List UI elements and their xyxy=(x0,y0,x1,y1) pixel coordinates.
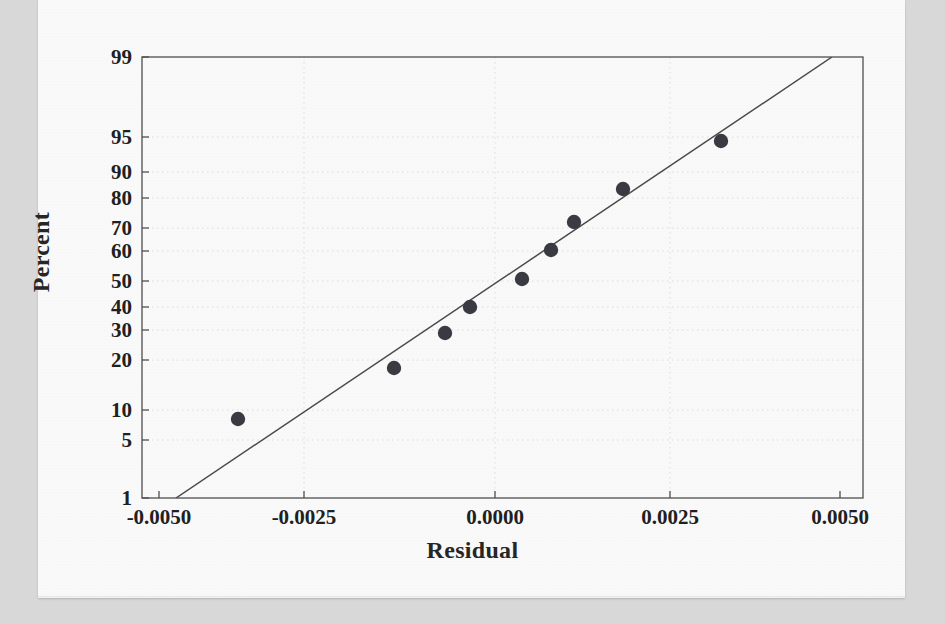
y-tick-label-30: 30 xyxy=(72,318,132,343)
data-point xyxy=(544,243,558,257)
x-tick-label-0000: 0.0000 xyxy=(415,505,575,530)
y-tick-label-60: 60 xyxy=(72,239,132,264)
data-point xyxy=(616,182,630,196)
data-point xyxy=(231,412,245,426)
y-tick-marks xyxy=(142,57,149,498)
x-tick-label-0025: 0.0025 xyxy=(590,505,750,530)
y-tick-label-50: 50 xyxy=(72,269,132,294)
y-tick-label-95: 95 xyxy=(72,125,132,150)
y-tick-label-99: 99 xyxy=(72,45,132,70)
y-tick-label-10: 10 xyxy=(72,398,132,423)
y-tick-label-80: 80 xyxy=(72,186,132,211)
y-axis-title: Percent xyxy=(28,212,55,292)
data-point xyxy=(567,215,581,229)
screenshot-root: 99 95 90 80 70 60 50 40 30 20 10 5 1 -0.… xyxy=(0,0,945,624)
plot-svg xyxy=(0,0,945,624)
data-point xyxy=(438,326,452,340)
x-tick-label-neg0025: -0.0025 xyxy=(224,505,384,530)
y-tick-label-40: 40 xyxy=(72,295,132,320)
y-tick-label-20: 20 xyxy=(72,348,132,373)
data-point xyxy=(463,300,477,314)
x-tick-label-neg0050: -0.0050 xyxy=(79,505,239,530)
data-point xyxy=(714,134,728,148)
data-point xyxy=(515,272,529,286)
x-axis-title: Residual xyxy=(0,537,945,564)
y-tick-label-70: 70 xyxy=(72,216,132,241)
data-point xyxy=(387,361,401,375)
y-tick-label-5: 5 xyxy=(72,428,132,453)
y-tick-label-90: 90 xyxy=(72,160,132,185)
grid-horizontal xyxy=(142,137,863,440)
plot-frame xyxy=(142,57,863,498)
grid-vertical xyxy=(304,57,670,498)
reference-line xyxy=(176,57,832,498)
x-tick-marks xyxy=(159,491,840,498)
x-tick-label-0050: 0.0050 xyxy=(760,505,920,530)
normal-probability-plot: 99 95 90 80 70 60 50 40 30 20 10 5 1 -0.… xyxy=(0,0,945,624)
